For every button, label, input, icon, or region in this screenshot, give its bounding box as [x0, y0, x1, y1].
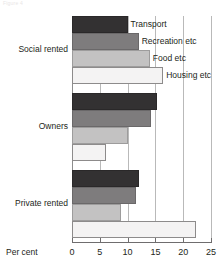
x-tick-10	[128, 238, 129, 243]
series-label-housing-etc: Housing etc	[166, 70, 211, 80]
bar	[72, 187, 136, 204]
bar	[72, 170, 139, 187]
category-label-social-rented: Social rented	[18, 44, 68, 54]
bar	[72, 221, 196, 238]
plot-area	[72, 16, 211, 242]
bar-chart: Figure 4 Social rented Owners Private re…	[0, 0, 217, 266]
x-tick-label-10: 10	[123, 247, 133, 257]
x-tick-5	[100, 238, 101, 243]
x-tick-label-0: 0	[69, 247, 74, 257]
gridline-20	[183, 16, 184, 242]
series-label-transport: Transport	[131, 19, 167, 29]
x-tick-25	[211, 238, 212, 243]
bar	[72, 50, 150, 67]
x-tick-15	[155, 238, 156, 243]
x-tick-label-25: 25	[206, 247, 216, 257]
x-axis-title: Per cent	[6, 247, 38, 257]
x-tick-label-5: 5	[97, 247, 102, 257]
x-tick-20	[183, 238, 184, 243]
x-tick-label-20: 20	[178, 247, 188, 257]
series-label-food-etc: Food etc	[153, 53, 186, 63]
x-tick-label-15: 15	[150, 247, 160, 257]
bar	[72, 110, 151, 127]
bar	[72, 16, 128, 33]
figure-caption: Figure 4	[3, 0, 23, 6]
series-label-recreation-etc: Recreation etc	[142, 36, 197, 46]
gridline-25	[211, 16, 212, 242]
gridline-15	[155, 16, 156, 242]
bar	[72, 67, 163, 84]
category-label-owners: Owners	[39, 121, 68, 131]
x-tick-0	[72, 238, 73, 243]
bar	[72, 93, 157, 110]
bar	[72, 127, 128, 144]
category-label-private-rented: Private rented	[15, 198, 68, 208]
x-axis-line	[72, 242, 212, 243]
bar	[72, 144, 106, 161]
bar	[72, 33, 139, 50]
bar	[72, 204, 121, 221]
